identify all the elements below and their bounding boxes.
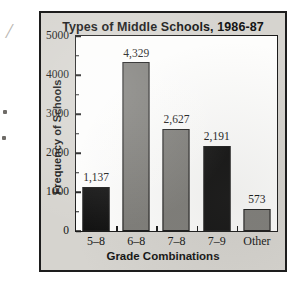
- plot-area: 010002000300040005000 1,1375–84,3296–82,…: [75, 35, 278, 232]
- x-tick-label: 7–9: [208, 235, 226, 247]
- x-axis-title: Grade Combinations: [41, 250, 285, 262]
- bar[interactable]: [203, 146, 230, 231]
- bar-group: 573Other: [237, 36, 277, 231]
- y-tick-label: 3000: [46, 108, 76, 120]
- y-tick-label: 0: [63, 225, 76, 237]
- bar-value-label: 4,329: [123, 48, 149, 60]
- x-tick-label: 7–8: [167, 235, 185, 247]
- y-tick-label: 2000: [46, 147, 76, 159]
- bar-value-label: 1,137: [83, 172, 109, 184]
- bar[interactable]: [123, 62, 150, 231]
- y-tick-label: 4000: [46, 69, 76, 81]
- y-tick-label: 5000: [46, 30, 76, 42]
- bar-group: 2,1917–9: [197, 36, 237, 231]
- y-tick-label: 1000: [46, 186, 76, 198]
- y-axis-title: Frequency of Schools: [51, 77, 63, 197]
- x-tick-label: Other: [243, 235, 270, 247]
- page-margin-mark: /: [6, 18, 24, 44]
- bar-group: 4,3296–8: [116, 36, 156, 231]
- bar[interactable]: [83, 187, 110, 231]
- bar-series: 1,1375–84,3296–82,6277–82,1917–9573Other: [76, 36, 277, 231]
- bar-group: 2,6277–8: [156, 36, 196, 231]
- figure-frame: Types of Middle Schools, 1986-87 Frequen…: [39, 11, 287, 272]
- page-margin-dots: [2, 110, 12, 150]
- x-tick-label: 5–8: [87, 235, 105, 247]
- bar-value-label: 2,627: [164, 114, 190, 126]
- x-tick-label: 6–8: [127, 235, 145, 247]
- bar-value-label: 573: [248, 194, 265, 206]
- chart-title: Types of Middle Schools, 1986-87: [41, 20, 285, 34]
- bar[interactable]: [163, 129, 190, 231]
- bar-value-label: 2,191: [204, 131, 230, 143]
- bar-group: 1,1375–8: [76, 36, 116, 231]
- bar[interactable]: [243, 209, 270, 231]
